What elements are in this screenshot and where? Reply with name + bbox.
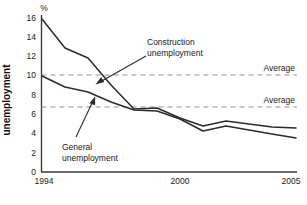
- annotation-general-line1: General: [62, 142, 92, 152]
- y-tick-14: 14: [27, 32, 37, 42]
- chart-background: [0, 0, 307, 205]
- x-tick-1994: 1994: [35, 176, 54, 186]
- y-tick-16: 16: [27, 13, 37, 23]
- y-tick-4: 4: [31, 128, 36, 138]
- annotation-construction-line1: Construction: [147, 37, 195, 47]
- average-label-general: Average: [263, 95, 295, 105]
- annotation-construction-line2: unemployment: [147, 48, 203, 58]
- percent-unit-label: %: [40, 3, 48, 13]
- unemployment-line-chart: unemployment % 16 14 12 10 8 6 4 2 0 Ave…: [0, 0, 307, 205]
- chart-container: unemployment % 16 14 12 10 8 6 4 2 0 Ave…: [0, 0, 307, 205]
- y-tick-8: 8: [31, 90, 36, 100]
- y-tick-12: 12: [27, 51, 37, 61]
- average-label-construction: Average: [263, 63, 295, 73]
- y-axis-title: unemployment: [1, 64, 12, 136]
- x-tick-2005: 2005: [282, 176, 301, 186]
- x-tick-2000: 2000: [171, 176, 190, 186]
- y-axis-title-text: unemployment: [1, 64, 12, 136]
- y-tick-10: 10: [27, 70, 37, 80]
- annotation-general-line2: unemployment: [62, 153, 118, 163]
- y-tick-6: 6: [31, 109, 36, 119]
- y-tick-2: 2: [31, 148, 36, 158]
